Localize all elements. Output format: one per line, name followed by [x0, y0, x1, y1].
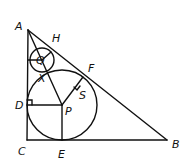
- label-q: Q: [36, 54, 45, 67]
- side-ac: [27, 30, 28, 140]
- label-a: A: [14, 20, 23, 33]
- geometry-diagram: A H Q F X S D P C E B: [0, 0, 188, 168]
- label-e: E: [58, 148, 65, 161]
- label-b: B: [172, 138, 180, 151]
- label-p: P: [65, 105, 72, 118]
- label-d: D: [15, 99, 23, 112]
- label-s: S: [79, 89, 86, 102]
- label-c: C: [18, 145, 26, 158]
- label-h: H: [52, 32, 60, 45]
- label-x: X: [37, 72, 46, 85]
- label-f: F: [88, 62, 95, 75]
- hypotenuse-ab: [28, 30, 167, 140]
